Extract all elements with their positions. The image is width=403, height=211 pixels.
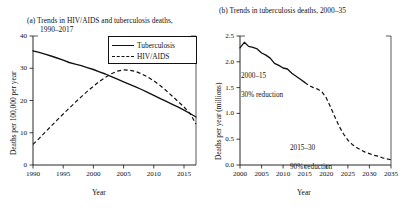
panel-b-annotation-2015-30: 2015–30 90% reduction [290, 135, 332, 182]
panel-a-x-tick-2000: 2000 [80, 170, 106, 178]
panel-a-y-tick-0: 0 [13, 161, 27, 169]
panel-a-x-tick-2005: 2005 [111, 170, 137, 178]
panel-b-annotation-2000-15: 2000–15 30% reduction [241, 63, 283, 110]
panel-a-legend: Tuberculosis HIV/AIDS [108, 36, 197, 64]
panel-a: (a) Trends in HIV/AIDS and tuberculosis … [0, 0, 205, 211]
panel-b-y-axis-title: Deaths per year (millions) [214, 83, 223, 160]
panel-b-x-axis-title: Year [297, 188, 311, 197]
panel-b-y-tick-2-0: 2.0 [212, 58, 234, 66]
panel-b-y-tick-0-0: 0.0 [212, 161, 234, 169]
annotation-2-line1: 2015–30 [290, 144, 332, 153]
panel-a-x-ticks [33, 165, 184, 169]
annotation-2-line2: 90% reduction [290, 163, 332, 172]
annotation-1-line2: 30% reduction [241, 91, 283, 100]
panel-a-y-tick-40: 40 [13, 32, 27, 40]
panel-a-plot [0, 0, 205, 211]
panel-a-y-ticks [30, 36, 34, 165]
panel-b-x-tick-2035: 2035 [378, 170, 403, 178]
legend-label-hivaids: HIV/AIDS [137, 52, 169, 61]
legend-label-tuberculosis: Tuberculosis [137, 41, 175, 50]
panel-b-y-ticks [237, 36, 241, 165]
panel-b-y-tick-2-5: 2.5 [212, 32, 234, 40]
panel-a-y-axis-title: Deaths per 100,000 per year [9, 71, 18, 155]
panel-a-x-tick-2015: 2015 [171, 170, 197, 178]
legend-solid-line-icon [112, 41, 134, 49]
panel-a-x-axis-title: Year [92, 188, 106, 197]
figure-container: (a) Trends in HIV/AIDS and tuberculosis … [0, 0, 403, 211]
panel-a-x-tick-2010: 2010 [141, 170, 167, 178]
legend-dashed-line-icon [112, 52, 134, 60]
panel-a-x-tick-1990: 1990 [20, 170, 46, 178]
panel-b: (b) Trends in tuberculosis deaths, 2000–… [205, 0, 403, 211]
panel-a-x-tick-1995: 1995 [50, 170, 76, 178]
panel-a-series-hivaids [33, 70, 196, 144]
annotation-1-line1: 2000–15 [241, 72, 283, 81]
legend-item-hivaids: HIV/AIDS [112, 50, 169, 62]
